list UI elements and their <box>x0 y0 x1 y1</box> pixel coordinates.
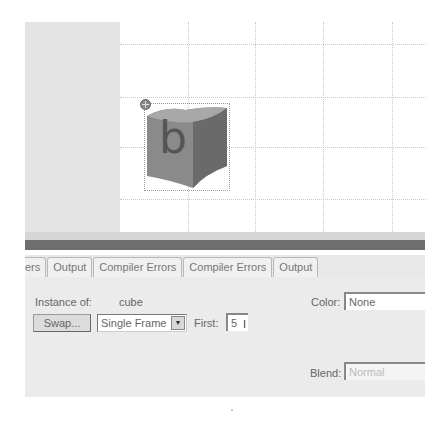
grid-line <box>120 44 426 45</box>
grid-line <box>120 97 426 98</box>
tab-compiler-errors-2[interactable]: Compiler Errors <box>183 257 272 277</box>
grid-line <box>120 199 426 200</box>
properties-panel: Instance of: cube Swap... Single Frame ▼… <box>25 277 425 397</box>
artifact-dot <box>231 409 233 411</box>
tab-output[interactable]: Output <box>47 257 92 277</box>
panel-divider-bar[interactable] <box>25 240 425 250</box>
loop-mode-select[interactable]: Single Frame ▼ <box>97 314 187 332</box>
cube-letter: b <box>159 116 187 160</box>
first-frame-input[interactable]: 5 I <box>226 313 248 331</box>
swap-button[interactable]: Swap... <box>33 314 91 332</box>
grid-line <box>323 22 324 232</box>
blend-mode-value: Normal <box>349 366 384 378</box>
first-frame-value: 5 <box>231 317 237 329</box>
cube-graphic <box>145 104 229 190</box>
color-effect-value: None <box>349 296 375 308</box>
blend-label: Blend: <box>310 367 341 379</box>
tab-compiler-errors[interactable]: Compiler Errors <box>93 257 182 277</box>
stage-scroll-strip <box>25 232 425 240</box>
registration-point-icon[interactable] <box>140 99 151 110</box>
color-effect-select[interactable]: None <box>344 292 425 310</box>
first-frame-label: First: <box>194 317 218 329</box>
left-panel <box>25 22 120 234</box>
chevron-down-icon[interactable]: ▼ <box>171 316 185 330</box>
text-cursor-icon: I <box>243 316 246 332</box>
grid-line <box>392 22 393 232</box>
tab-errors[interactable]: ers <box>25 257 46 277</box>
tab-output-2[interactable]: Output <box>273 257 318 277</box>
panel-tabs: ers Output Compiler Errors Compiler Erro… <box>25 255 425 277</box>
color-label: Color: <box>311 296 340 308</box>
instance-of-label: Instance of: <box>35 296 92 308</box>
blend-mode-select[interactable]: Normal <box>344 362 425 380</box>
cube-symbol-instance[interactable]: b <box>144 103 230 191</box>
grid-line <box>255 22 256 232</box>
instance-of-value: cube <box>119 296 143 308</box>
loop-mode-value: Single Frame <box>101 317 166 329</box>
